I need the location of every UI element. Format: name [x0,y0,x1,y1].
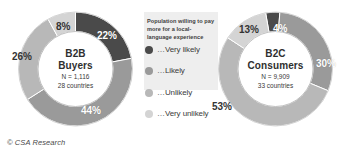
donut-b2b-label-likely: 44% [81,105,101,116]
donut-chart-b2b: B2B Buyers N = 1,116 28 countries 22% 44… [8,8,143,130]
chart-legend: Population willing to pay more for a loc… [144,12,218,124]
copyright-credit: © CSA Research [7,138,65,147]
donut-chart-b2c: B2C Consumers N = 9,909 33 countries 4% … [208,8,343,130]
donut-b2b-label-unlikely: 26% [12,51,32,62]
legend-swatch-circle-icon [145,46,153,54]
donut-rim [238,32,313,107]
donut-b2b-svg [8,8,143,130]
legend-item-label: …Very likely [157,45,200,54]
donut-b2b-label-very-likely: 22% [97,30,117,41]
donut-b2b-label-very-unlikely: 8% [56,21,70,32]
donut-b2c-label-very-likely: 4% [273,23,287,34]
donut-b2c-label-very-unlikely: 13% [239,24,259,35]
legend-swatch-circle-icon [145,110,153,118]
donut-b2c-label-likely: 30% [316,58,336,69]
chart-figure: B2B Buyers N = 1,116 28 countries 22% 44… [0,0,351,157]
legend-item-label: …Unlikely [157,88,192,97]
legend-item-label: …Likely [157,66,185,75]
legend-swatch-circle-icon [145,67,153,75]
donut-rim [38,32,113,107]
legend-item-label: …Very unlikely [157,109,209,118]
legend-swatch-circle-icon [145,89,153,97]
legend-title: Population willing to pay more for a loc… [147,17,215,41]
donut-b2c-label-unlikely: 53% [212,101,232,112]
